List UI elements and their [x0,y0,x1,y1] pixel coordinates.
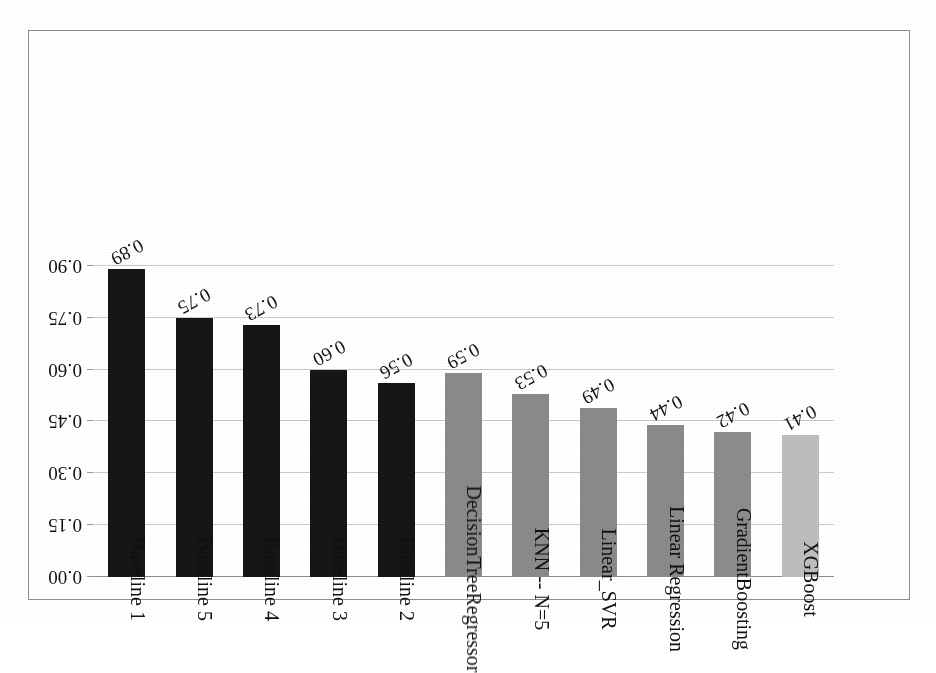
category-label: XGBoost [800,541,821,617]
y-axis-tick-label: 0.45 [48,411,82,433]
category-label-line: Linear Regression [666,506,688,652]
bar-column[interactable]: 0.42GradientBoosting [714,266,751,577]
category-label: GradientBoosting [733,508,754,650]
category-label-line: Baseline 1 [127,537,149,621]
category-label-line: XGBoost [800,541,822,617]
bar-value-label: 0.42 [713,397,753,432]
y-axis-tick-label: 0.00 [48,566,82,588]
bar-value-label: 0.73 [241,290,281,325]
category-label-line: KNN -- N=5 [531,528,553,630]
bar-rect[interactable] [108,269,145,577]
category-label: DecisionTreeRegressor [464,485,485,672]
y-axis-tick-label: 0.30 [48,462,82,484]
bar-value-label: 0.59 [443,338,483,373]
y-axis-tick-label: 0.15 [48,514,82,536]
category-label-wrapper: KNN -- N=5 [512,579,549,580]
bar-value-label: 0.53 [511,359,551,394]
category-label-line: Regressor [464,593,486,673]
category-label: Linear Regression [666,506,687,652]
bar-value-label: 0.49 [578,373,618,408]
category-label-wrapper: DecisionTreeRegressor [445,579,482,580]
bar-column[interactable]: 0.60Baseline 3 [310,266,347,577]
bar-value-label: 0.56 [376,349,416,384]
y-axis-tick-label: 0.90 [48,255,82,277]
bar-column[interactable]: 0.53KNN -- N=5 [512,266,549,577]
category-label-wrapper: XGBoost [782,579,819,580]
category-label: Baseline 5 [194,537,215,621]
plot-area: 0.000.150.300.450.600.750.90 0.41XGBoost… [93,266,834,577]
bar-column[interactable]: 0.59DecisionTreeRegressor [445,266,482,577]
y-axis-tick-label: 0.60 [48,359,82,381]
category-label: KNN -- N=5 [531,528,552,630]
y-axis-tick-label: 0.75 [48,307,82,329]
bar-column[interactable]: 0.73Baseline 4 [243,266,280,577]
bar-value-label: 0.41 [780,401,820,436]
category-label-wrapper: Linear Regression [647,579,684,580]
category-label-wrapper: Linear_SVR [580,579,617,580]
chart-frame-border: 0.000.150.300.450.600.750.90 0.41XGBoost… [28,30,910,600]
bar-column[interactable]: 0.49Linear_SVR [580,266,617,577]
category-label-wrapper: GradientBoosting [714,579,751,580]
category-label-line: GradientBoosting [733,508,755,650]
category-label-line: DecisionTree [464,485,486,592]
category-label: Baseline 1 [127,537,148,621]
category-label-line: Baseline 2 [396,537,418,621]
category-label-wrapper: Baseline 3 [310,579,347,580]
bar-column[interactable]: 0.75Baseline 5 [176,266,213,577]
bar-column[interactable]: 0.89Baseline 1 [108,266,145,577]
bar-column[interactable]: 0.44Linear Regression [647,266,684,577]
bar-column[interactable]: 0.41XGBoost [782,266,819,577]
category-label: Baseline 4 [261,537,282,621]
category-label: Linear_SVR [598,528,619,629]
bar-column[interactable]: 0.56Baseline 2 [378,266,415,577]
bar-value-label: 0.44 [645,390,685,425]
category-label-line: Linear_SVR [598,528,620,629]
category-label: Baseline 2 [396,537,417,621]
category-label-line: Baseline 4 [261,537,283,621]
bar-value-label: 0.75 [174,283,214,318]
category-label-line: Baseline 5 [194,537,216,621]
category-label-wrapper: Baseline 2 [378,579,415,580]
category-label-line: Baseline 3 [329,537,351,621]
category-label-wrapper: Baseline 5 [176,579,213,580]
category-label-wrapper: Baseline 4 [243,579,280,580]
bars-layer: 0.41XGBoost0.42GradientBoosting0.44Linea… [93,266,834,577]
category-label: Baseline 3 [329,537,350,621]
bar-value-label: 0.60 [309,335,349,370]
category-label-wrapper: Baseline 1 [108,579,145,580]
